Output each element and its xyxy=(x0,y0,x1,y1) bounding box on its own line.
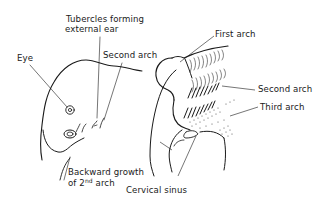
stippling xyxy=(190,100,235,139)
pharyngeal-arches-outline xyxy=(150,46,228,176)
label-first-arch: First arch xyxy=(215,29,256,39)
label-of-2nd-suffix: arch xyxy=(93,178,115,188)
label-tubercles-forming: Tubercles forming xyxy=(66,14,144,24)
ear-tubercles-icon xyxy=(64,118,104,138)
label-of-2nd-prefix: of 2 xyxy=(68,178,85,188)
label-backward-growth: Backward growth xyxy=(68,167,144,177)
label-second-arch-left: Second arch xyxy=(103,50,157,60)
label-external-ear: external ear xyxy=(65,24,118,34)
label-cervical-sinus: Cervical sinus xyxy=(126,185,187,195)
label-second-arch-right: Second arch xyxy=(258,84,312,94)
label-eye: Eye xyxy=(17,53,33,63)
embryo-head-outline xyxy=(41,60,143,180)
label-of-2nd-sup: nd xyxy=(85,177,93,184)
diagram-artwork xyxy=(0,0,327,202)
label-third-arch: Third arch xyxy=(260,102,304,112)
arch-dense-strokes xyxy=(184,83,219,118)
embryology-diagram: Tubercles forming external ear Eye Secon… xyxy=(0,0,327,202)
label-of-2nd-arch: of 2nd arch xyxy=(68,178,115,188)
